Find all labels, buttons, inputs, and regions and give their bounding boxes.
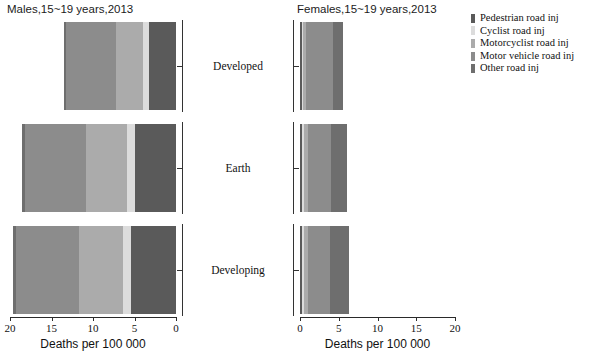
stacked-bar-earth[interactable] <box>10 124 176 212</box>
axis-tick <box>416 317 417 321</box>
legend-label: Pedestrian road inj <box>480 13 559 24</box>
bar-segment[interactable] <box>333 22 343 110</box>
axis-tick-label: 15 <box>411 322 422 334</box>
axis-tick <box>135 317 136 321</box>
bar-segment[interactable] <box>79 226 123 314</box>
legend-label: Motorcyclist road inj <box>480 38 569 49</box>
legend-item[interactable]: Pedestrian road inj <box>471 12 591 25</box>
bar-segment[interactable] <box>123 226 131 314</box>
bar-segment[interactable] <box>131 226 176 314</box>
bar-segment[interactable] <box>135 124 177 212</box>
bar-segment[interactable] <box>149 22 176 110</box>
axis-tick-label: 5 <box>132 322 138 334</box>
axis-tick <box>378 317 379 321</box>
male-plot-area <box>10 18 176 315</box>
axis-tick-label: 10 <box>88 322 99 334</box>
axis-tick <box>300 317 301 321</box>
legend-swatch-icon <box>471 64 475 73</box>
bar-row <box>300 22 455 110</box>
stacked-bar-developing[interactable] <box>300 226 455 314</box>
category-axis-spine <box>293 20 294 112</box>
bar-segment[interactable] <box>86 124 128 212</box>
legend-label: Other road inj <box>480 63 539 74</box>
bar-segment[interactable] <box>127 124 134 212</box>
axis-tick-label: 10 <box>372 322 383 334</box>
category-axis-spine <box>182 122 183 214</box>
axis-tick-label: 0 <box>297 322 303 334</box>
legend-label: Motor vehicle road inj <box>480 51 574 62</box>
bar-row <box>10 226 176 314</box>
axis-tick <box>455 317 456 321</box>
axis-tick <box>93 317 94 321</box>
axis-tick <box>176 317 177 321</box>
category-axis-spine <box>293 224 294 316</box>
axis-tick-label: 5 <box>336 322 342 334</box>
category-label-developing: Developing <box>211 264 265 276</box>
legend-item[interactable]: Other road inj <box>471 62 591 75</box>
female-x-axis-title: Deaths per 100 000 <box>325 337 430 351</box>
axis-tick-label: 20 <box>5 322 16 334</box>
bar-segment[interactable] <box>66 22 117 110</box>
axis-tick <box>339 317 340 321</box>
axis-tick-label: 20 <box>450 322 461 334</box>
stacked-bar-developed[interactable] <box>300 22 455 110</box>
bar-row <box>300 226 455 314</box>
female-plot-area <box>300 18 455 315</box>
category-axis-spine <box>182 224 183 316</box>
bar-segment[interactable] <box>331 124 347 212</box>
road-injury-pyramid-chart: Males,15~19 years,2013 Females,15~19 yea… <box>0 0 594 363</box>
category-axis-spine <box>182 20 183 112</box>
stacked-bar-developing[interactable] <box>10 226 176 314</box>
legend-swatch-icon <box>471 52 475 61</box>
axis-tick <box>10 317 11 321</box>
stacked-bar-earth[interactable] <box>300 124 455 212</box>
bar-segment[interactable] <box>308 226 330 314</box>
bar-segment[interactable] <box>116 22 143 110</box>
bar-segment[interactable] <box>306 22 333 110</box>
female-panel-title: Females,15~19 years,2013 <box>297 3 437 15</box>
bar-row <box>10 22 176 110</box>
bar-segment[interactable] <box>16 226 79 314</box>
axis-tick-label: 15 <box>46 322 57 334</box>
bar-row <box>300 124 455 212</box>
category-axis-spine <box>293 122 294 214</box>
legend-swatch-icon <box>471 39 475 48</box>
category-label-developed: Developed <box>213 60 263 72</box>
bar-segment[interactable] <box>308 124 331 212</box>
male-panel-title: Males,15~19 years,2013 <box>7 3 133 15</box>
axis-tick-label: 0 <box>173 322 179 334</box>
legend-item[interactable]: Cyclist road inj <box>471 25 591 38</box>
bar-segment[interactable] <box>330 226 349 314</box>
legend-swatch-icon <box>471 14 475 23</box>
legend-item[interactable]: Motor vehicle road inj <box>471 50 591 63</box>
stacked-bar-developed[interactable] <box>10 22 176 110</box>
bar-row <box>10 124 176 212</box>
bar-segment[interactable] <box>25 124 86 212</box>
axis-tick <box>52 317 53 321</box>
category-label-earth: Earth <box>226 162 251 174</box>
legend-swatch-icon <box>471 26 475 35</box>
legend-item[interactable]: Motorcyclist road inj <box>471 37 591 50</box>
male-x-axis-title: Deaths per 100 000 <box>40 337 145 351</box>
legend-label: Cyclist road inj <box>480 26 545 37</box>
legend: Pedestrian road injCyclist road injMotor… <box>471 12 591 75</box>
